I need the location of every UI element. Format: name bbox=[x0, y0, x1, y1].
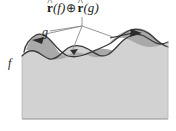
leader-line-to-right-lobe bbox=[82, 26, 113, 37]
argument-g: (g) bbox=[83, 0, 98, 15]
diagram-canvas bbox=[0, 0, 176, 131]
curve-g-label: g bbox=[42, 26, 48, 38]
curve-f-label: f bbox=[8, 57, 11, 69]
hat-accent-1: ^ bbox=[47, 0, 52, 7]
argument-f: (f) bbox=[53, 0, 66, 15]
r-hat-symbol-2: ^r bbox=[78, 1, 84, 14]
hat-accent-2: ^ bbox=[78, 0, 83, 7]
leader-line-to-g-label bbox=[50, 26, 82, 31]
figure-container: ^r(f)⊕^r(g) g f bbox=[0, 0, 176, 131]
oplus-icon: ⊕ bbox=[65, 1, 77, 15]
formula-label: ^r(f)⊕^r(g) bbox=[47, 1, 99, 14]
r-hat-symbol-1: ^r bbox=[47, 1, 53, 14]
